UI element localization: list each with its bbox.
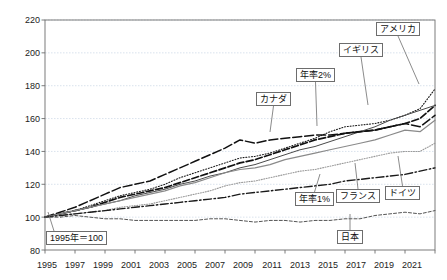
series-callout: 年率1% [295,192,334,206]
x-tick-label: 2001 [116,260,146,270]
x-tick-label: 2017 [341,260,371,270]
x-tick-label: 2013 [285,260,315,270]
y-tick-label: 200 [14,48,40,58]
series-callout: フランス [336,189,380,203]
x-tick-label: 1995 [32,260,62,270]
y-tick-label: 80 [14,246,40,256]
x-tick-label: 2007 [200,260,230,270]
y-tick-label: 100 [14,213,40,223]
x-tick-label: 2005 [172,260,202,270]
series-callout: 年率2% [296,68,335,82]
x-tick-label: 2011 [257,260,287,270]
x-tick-label: 2015 [313,260,343,270]
y-tick-label: 120 [14,180,40,190]
y-tick-label: 140 [14,147,40,157]
series-callout: アメリカ [376,22,420,36]
series-callout: カナダ [256,92,291,106]
series-callout: 日本 [337,230,363,244]
x-tick-label: 1997 [60,260,90,270]
y-tick-label: 220 [14,15,40,25]
x-tick-label: 2009 [228,260,258,270]
series-callout: ドイツ [385,186,420,200]
x-tick-label: 2003 [144,260,174,270]
y-tick-label: 160 [14,114,40,124]
series-callout: イギリス [339,43,383,57]
x-tick-label: 2021 [397,260,427,270]
y-tick-label: 180 [14,81,40,91]
x-tick-label: 1999 [88,260,118,270]
base-year-note: 1995年＝100 [46,231,107,245]
x-tick-label: 2019 [369,260,399,270]
chart-container: 220 200 180 160 140 120 100 80 1995 1997… [0,0,447,280]
